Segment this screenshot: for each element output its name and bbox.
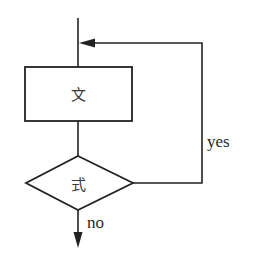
flowchart-canvas: 文 式 yes no (0, 0, 257, 262)
yes-label: yes (207, 132, 230, 151)
condition-label: 式 (71, 176, 86, 194)
exit-arrow-head (74, 232, 83, 248)
statement-label: 文 (71, 86, 86, 104)
no-label: no (87, 213, 104, 232)
